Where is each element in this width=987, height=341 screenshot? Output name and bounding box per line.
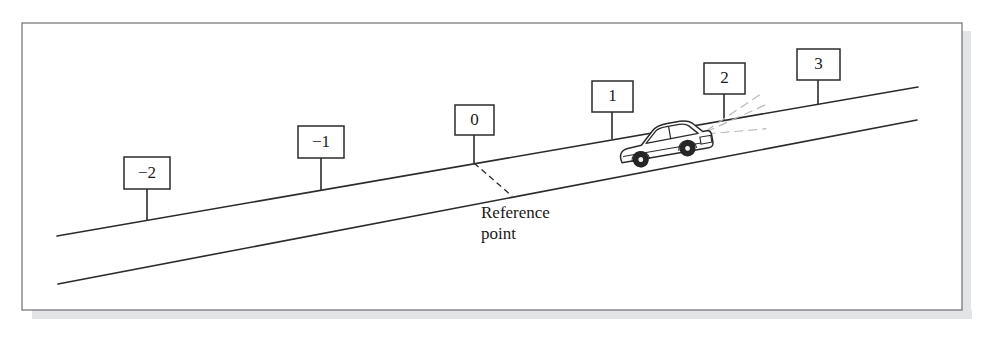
reference-point-label-line1: Reference xyxy=(481,203,550,222)
car-headlamp xyxy=(700,135,712,144)
figure-container: −2−10123 Reference point xyxy=(0,0,987,341)
marker-sign-label: 3 xyxy=(814,54,823,73)
marker-sign-label: 1 xyxy=(608,86,617,105)
marker-sign-label: 0 xyxy=(470,110,479,129)
reference-point-label-line2: point xyxy=(481,224,516,243)
road-position-diagram: −2−10123 Reference point xyxy=(0,0,987,341)
marker-sign-label: 2 xyxy=(720,68,729,87)
marker-sign-label: −1 xyxy=(312,132,330,151)
marker-sign-label: −2 xyxy=(138,163,156,182)
